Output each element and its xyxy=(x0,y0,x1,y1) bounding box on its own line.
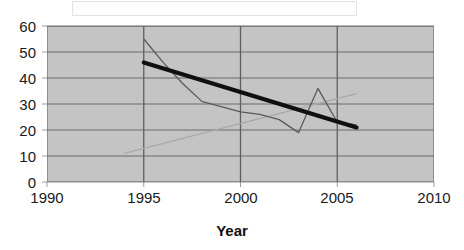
chart-container: 60 50 40 30 20 10 0 1990 1995 2000 2005 … xyxy=(0,0,464,250)
series-trend-line xyxy=(144,62,357,127)
chart-plot-overlay xyxy=(0,0,464,250)
axis-ticks xyxy=(42,26,434,187)
